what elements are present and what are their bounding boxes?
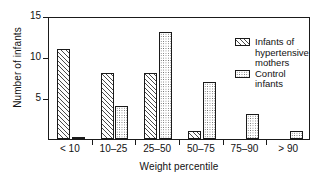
- bar: [188, 131, 201, 139]
- bar: [101, 73, 114, 139]
- x-tick-label: 50–75: [179, 143, 223, 154]
- bar: [290, 131, 303, 139]
- plot-area: Infants of hypertensive mothers Control …: [48, 17, 310, 140]
- y-axis-label: Number of infants: [12, 3, 23, 133]
- y-tick-label: 5: [35, 92, 41, 103]
- chart-figure: Number of infants Weight percentile 5101…: [0, 0, 322, 176]
- x-tick-label: > 90: [266, 143, 310, 154]
- bar: [72, 137, 85, 139]
- y-tick-label: 15: [30, 10, 41, 21]
- legend-label: Control infants: [255, 69, 309, 90]
- bar: [57, 49, 70, 139]
- legend-swatch-dots-icon: [235, 70, 250, 78]
- x-tick-label: 25–50: [135, 143, 179, 154]
- legend-label: Infants of hypertensive mothers: [255, 37, 309, 69]
- chart-legend: Infants of hypertensive mothers Control …: [235, 37, 309, 90]
- bar: [246, 114, 259, 139]
- x-tick-label: 10–25: [92, 143, 136, 154]
- legend-item: Control infants: [235, 69, 309, 90]
- bar: [159, 32, 172, 139]
- x-axis-label: Weight percentile: [48, 161, 310, 172]
- bar: [144, 73, 157, 139]
- x-tick-label: < 10: [48, 143, 92, 154]
- legend-item: Infants of hypertensive mothers: [235, 37, 309, 69]
- bar: [115, 106, 128, 139]
- bar: [203, 82, 216, 139]
- x-tick-label: 75–90: [223, 143, 267, 154]
- y-tick-label: 10: [30, 51, 41, 62]
- legend-swatch-hatch-icon: [235, 38, 250, 46]
